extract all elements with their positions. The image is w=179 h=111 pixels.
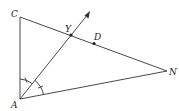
label-a: A — [10, 100, 18, 110]
point-d-dot — [92, 42, 95, 45]
label-d: D — [93, 32, 101, 42]
label-n: N — [168, 67, 178, 77]
geometry-diagram: C A N Y D — [0, 0, 179, 111]
label-c: C — [11, 9, 18, 19]
label-y: Y — [65, 24, 72, 34]
ray-ay-bisector — [20, 14, 88, 99]
segment-an — [20, 71, 167, 99]
